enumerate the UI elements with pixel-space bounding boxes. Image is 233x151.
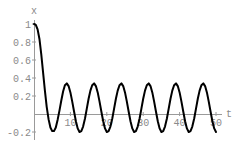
y-tick-label: -0.2 — [7, 128, 31, 139]
y-tick-label: 0.4 — [13, 74, 31, 85]
y-axis-label: x — [31, 6, 37, 17]
y-tick-label: 0.6 — [13, 56, 31, 67]
y-tick-label: 1 — [25, 20, 31, 31]
y-tick-label: 0.2 — [13, 92, 31, 103]
y-ticks: -0.20.20.40.60.81 — [7, 20, 36, 139]
y-tick-label: 0.8 — [13, 38, 31, 49]
series-line-x-of-t — [34, 24, 216, 132]
line-chart: 1020304050 -0.20.20.40.60.81 t x — [0, 0, 233, 151]
x-axis-label: t — [226, 109, 232, 120]
axes: 1020304050 -0.20.20.40.60.81 t x — [7, 6, 232, 140]
